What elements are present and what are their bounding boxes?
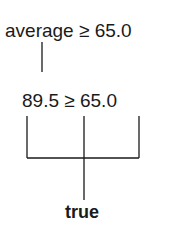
evaluation-tree-lines — [0, 0, 170, 233]
